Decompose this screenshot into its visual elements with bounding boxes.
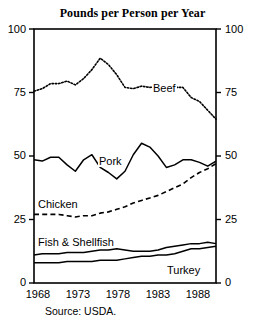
y-tick-right-75: 75 <box>225 86 255 98</box>
x-tick-1968: 1968 <box>18 288 58 300</box>
x-tick-1983: 1983 <box>138 288 178 300</box>
series-label-pork: Pork <box>98 155 123 167</box>
y-tick-right-25: 25 <box>225 213 255 225</box>
source-note: Source: USDA. <box>45 305 116 317</box>
series-label-turkey: Turkey <box>166 264 201 276</box>
y-tick-right-0: 0 <box>225 276 255 288</box>
y-tick-left-100: 100 <box>0 23 26 35</box>
x-tick-1978: 1978 <box>98 288 138 300</box>
series-label-chicken: Chicken <box>37 198 79 210</box>
y-tick-left-75: 75 <box>0 86 26 98</box>
y-tick-left-25: 25 <box>0 213 26 225</box>
y-tick-right-50: 50 <box>225 149 255 161</box>
y-tick-left-50: 50 <box>0 149 26 161</box>
series-label-beef: Beef <box>152 82 177 94</box>
chart-figure: Pounds per Person per Year 100 75 50 25 … <box>0 0 265 333</box>
series-label-fish: Fish & Shellfish <box>37 236 115 248</box>
x-tick-1973: 1973 <box>58 288 98 300</box>
y-tick-right-100: 100 <box>225 23 255 35</box>
y-tick-left-0: 0 <box>0 276 26 288</box>
x-tick-1988: 1988 <box>178 288 218 300</box>
